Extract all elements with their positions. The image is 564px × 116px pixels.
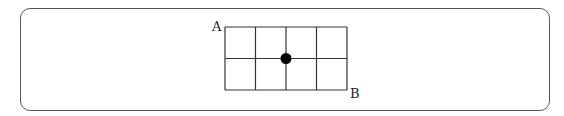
label-b: B bbox=[350, 86, 360, 101]
marker-dot bbox=[281, 53, 292, 64]
grid-diagram: A B bbox=[0, 0, 564, 116]
label-a: A bbox=[211, 19, 222, 34]
